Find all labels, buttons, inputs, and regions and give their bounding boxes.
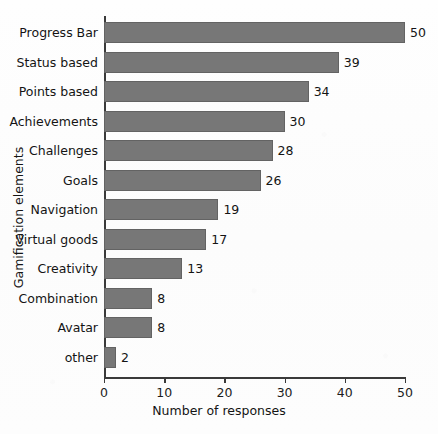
x-tick-mark	[224, 377, 225, 383]
bar-value-label: 8	[157, 320, 165, 335]
bar-value-label: 8	[157, 291, 165, 306]
y-category-label: Combination	[19, 291, 99, 306]
bar-row: 19	[104, 199, 218, 220]
bar	[104, 81, 309, 102]
y-category-label: Points based	[19, 84, 98, 99]
bar-chart-figure: 01020304050 50Progress Bar39Status based…	[0, 0, 438, 434]
y-category-label: Status based	[16, 55, 98, 70]
bar-row: 28	[104, 140, 273, 161]
bar-value-label: 17	[211, 232, 227, 247]
y-category-label: Challenges	[29, 143, 98, 158]
x-tick-mark	[285, 377, 286, 383]
x-tick-label: 10	[156, 385, 172, 400]
x-axis-line	[104, 377, 406, 379]
bar-row: 8	[104, 288, 152, 309]
bar-row: 26	[104, 170, 261, 191]
bar-value-label: 19	[223, 202, 239, 217]
x-tick-mark	[405, 377, 406, 383]
bar-value-label: 30	[290, 114, 306, 129]
bar-row: 50	[104, 22, 405, 43]
bar	[104, 52, 339, 73]
bar	[104, 347, 116, 368]
y-category-label: Virtual goods	[16, 232, 99, 247]
bar	[104, 22, 405, 43]
bar-value-label: 39	[344, 55, 360, 70]
x-tick-label: 50	[397, 385, 413, 400]
bar-row: 13	[104, 258, 182, 279]
y-category-label: Achievements	[9, 114, 98, 129]
bar-value-label: 28	[278, 143, 294, 158]
y-axis-title: Gamification elements	[11, 138, 26, 298]
bar	[104, 199, 218, 220]
y-category-label: Goals	[63, 173, 98, 188]
bar-row: 39	[104, 52, 339, 73]
x-tick-label: 30	[277, 385, 293, 400]
x-axis-title: Number of responses	[0, 403, 438, 418]
bar	[104, 111, 285, 132]
bar-row: 34	[104, 81, 309, 102]
y-category-label: Progress Bar	[19, 25, 98, 40]
bar-value-label: 2	[121, 350, 129, 365]
x-tick-mark	[345, 377, 346, 383]
bar	[104, 140, 273, 161]
bar	[104, 317, 152, 338]
y-category-label: Creativity	[38, 261, 99, 276]
bar	[104, 229, 206, 250]
y-category-label: other	[65, 350, 98, 365]
bar-value-label: 34	[314, 84, 330, 99]
x-tick-label: 20	[216, 385, 232, 400]
bar	[104, 258, 182, 279]
bar-value-label: 13	[187, 261, 203, 276]
bar-value-label: 26	[266, 173, 282, 188]
x-tick-label: 0	[100, 385, 108, 400]
x-tick-label: 40	[337, 385, 353, 400]
x-tick-mark	[104, 377, 105, 383]
y-category-label: Avatar	[57, 320, 98, 335]
bar	[104, 170, 261, 191]
x-tick-mark	[164, 377, 165, 383]
bar	[104, 288, 152, 309]
y-category-label: Navigation	[31, 202, 98, 217]
bar-row: 17	[104, 229, 206, 250]
bar-row: 2	[104, 347, 116, 368]
bar-value-label: 50	[410, 25, 426, 40]
bar-row: 8	[104, 317, 152, 338]
bar-row: 30	[104, 111, 285, 132]
